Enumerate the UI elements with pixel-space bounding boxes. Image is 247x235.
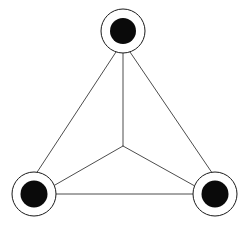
node-bottom-left-disk [21,181,48,208]
node-top[interactable] [101,9,145,53]
node-bottom-left[interactable] [12,172,56,216]
node-bottom-right-disk [202,181,229,208]
diagram-canvas [0,0,247,235]
node-top-disk [110,18,136,44]
node-bottom-right[interactable] [193,172,237,216]
diagram-svg [0,0,247,235]
